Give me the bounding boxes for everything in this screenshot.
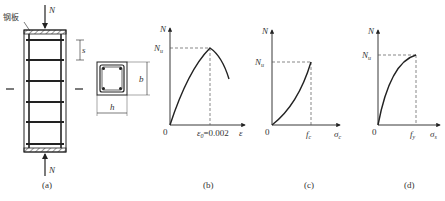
ties: [26, 40, 64, 144]
rebar-dot: [102, 87, 105, 90]
fy-label: fy: [410, 129, 416, 140]
figure-canvas: N N 钢板 s b h (a) N: [0, 0, 445, 201]
caption-a: (a): [42, 180, 52, 190]
panel-c-load-concrete-stress: N Nu 0 fc σc (c): [254, 26, 341, 190]
column-outline: [24, 30, 66, 152]
panel-a-column: N N 钢板 s: [3, 5, 86, 176]
width-label: h: [110, 102, 115, 112]
load-strain-curve: [170, 48, 229, 125]
x-axis-label: ε: [239, 128, 243, 138]
x-axis-label: σc: [334, 129, 341, 140]
load-label-top: N: [48, 5, 56, 15]
load-stress-curve: [272, 62, 311, 125]
x-axis-label: σs: [430, 129, 437, 140]
steel-plate-label: 钢板: [3, 12, 19, 22]
rebar-dot: [119, 67, 122, 70]
eps0-label: ε0=0.002: [197, 128, 229, 139]
caption-d: (d): [404, 180, 415, 190]
y-axis-label: N: [261, 26, 269, 36]
caption-b: (b): [203, 180, 214, 190]
load-stress-curve: [378, 55, 416, 125]
steel-plate-top: [24, 30, 66, 34]
y-axis-label: N: [367, 26, 375, 36]
rebar-dot: [119, 87, 122, 90]
origin-label: 0: [265, 127, 270, 137]
nu-label: Nu: [153, 43, 163, 54]
rebar-dot: [102, 67, 105, 70]
origin-label: 0: [372, 127, 377, 137]
depth-label: b: [139, 74, 144, 84]
load-label-bottom: N: [48, 165, 56, 175]
panel-d-load-steel-stress: N Nu 0 fy σs (d): [361, 26, 440, 190]
tie-inner: [102, 67, 122, 90]
cross-section: b h: [97, 62, 150, 116]
steel-plate-bottom: [24, 148, 66, 152]
y-axis-label: N: [159, 24, 167, 34]
fc-label: fc: [306, 129, 312, 140]
spacing-label: s: [82, 45, 86, 55]
caption-c: (c): [304, 180, 314, 190]
nu-label: Nu: [361, 50, 371, 61]
nu-label: Nu: [254, 57, 264, 68]
panel-b-load-strain: N Nu 0 ε0=0.002 ε (b): [153, 24, 245, 190]
origin-label: 0: [163, 127, 168, 137]
